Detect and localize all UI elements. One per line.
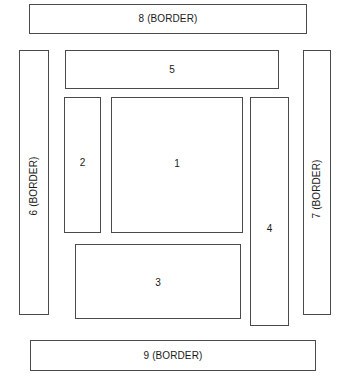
region-9-label: 9 (BORDER) xyxy=(144,351,203,361)
diagram-canvas: 8 (BORDER) 6 (BORDER) 7 (BORDER) 5 2 1 4… xyxy=(0,0,346,378)
region-7-border-right: 7 (BORDER) xyxy=(303,50,331,315)
region-4-label: 4 xyxy=(267,224,273,234)
region-1-label: 1 xyxy=(174,159,180,169)
region-2: 2 xyxy=(64,97,101,233)
region-9-border-bottom: 9 (BORDER) xyxy=(30,340,316,371)
region-3-label: 3 xyxy=(155,278,161,288)
region-1: 1 xyxy=(111,97,243,233)
region-4: 4 xyxy=(250,97,289,326)
region-6-label: 6 (BORDER) xyxy=(29,156,39,215)
region-7-label: 7 (BORDER) xyxy=(312,159,322,218)
region-3: 3 xyxy=(75,244,241,319)
region-5-label: 5 xyxy=(169,65,175,75)
region-2-label: 2 xyxy=(80,158,86,168)
region-6-border-left: 6 (BORDER) xyxy=(19,50,49,315)
region-5: 5 xyxy=(65,50,279,89)
region-8-label: 8 (BORDER) xyxy=(139,14,198,24)
region-8-border-top: 8 (BORDER) xyxy=(29,4,307,34)
